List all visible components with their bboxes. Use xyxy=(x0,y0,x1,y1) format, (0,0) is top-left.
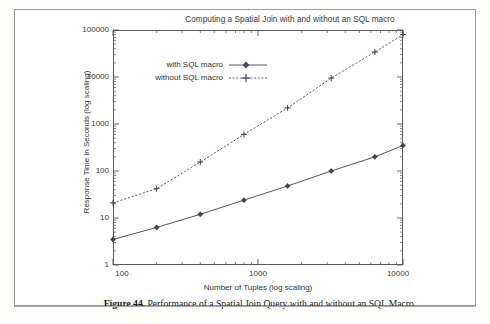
y-tick-label: 1000 xyxy=(49,119,109,128)
y-tick-label: 10000 xyxy=(49,72,109,81)
y-tick-label: 1 xyxy=(49,260,109,269)
y-tick-label: 100 xyxy=(49,166,109,175)
caption-body: Performance of a Spatial Join Query with… xyxy=(145,298,416,309)
y-tick-label: 100000 xyxy=(49,25,109,34)
figure-caption: Figure 44. Performance of a Spatial Join… xyxy=(43,298,477,309)
legend-item-with-sql-macro: with SQL macro xyxy=(123,58,269,71)
figure-block: Computing a Spatial Join with and withou… xyxy=(15,10,475,280)
chart-legend: with SQL macro without SQL macro xyxy=(123,58,269,84)
legend-label: with SQL macro xyxy=(166,58,223,71)
legend-marker-plus-icon xyxy=(227,71,269,84)
series-with-sql-macro xyxy=(110,143,405,242)
x-axis-label: Number of Tuples (log scaling) xyxy=(113,283,403,292)
legend-label: without SQL macro xyxy=(155,71,223,84)
y-axis-label: Response Time in Seconds (log scaling) xyxy=(82,71,91,214)
caption-figure-number: Figure 44. xyxy=(104,298,145,309)
caption-divider xyxy=(14,306,476,307)
x-tick-label: 10000 xyxy=(375,269,421,278)
chart-title: Computing a Spatial Join with and withou… xyxy=(60,15,490,24)
x-tick-label: 100 xyxy=(99,269,145,278)
x-tick-label: 1000 xyxy=(235,269,281,278)
y-tick-label: 10 xyxy=(49,213,109,222)
legend-marker-diamond-icon xyxy=(227,58,269,71)
document-page: Computing a Spatial Join with and withou… xyxy=(0,0,490,324)
legend-item-without-sql-macro: without SQL macro xyxy=(123,71,269,84)
plot-area: Response Time in Seconds (log scaling) N… xyxy=(113,30,403,265)
